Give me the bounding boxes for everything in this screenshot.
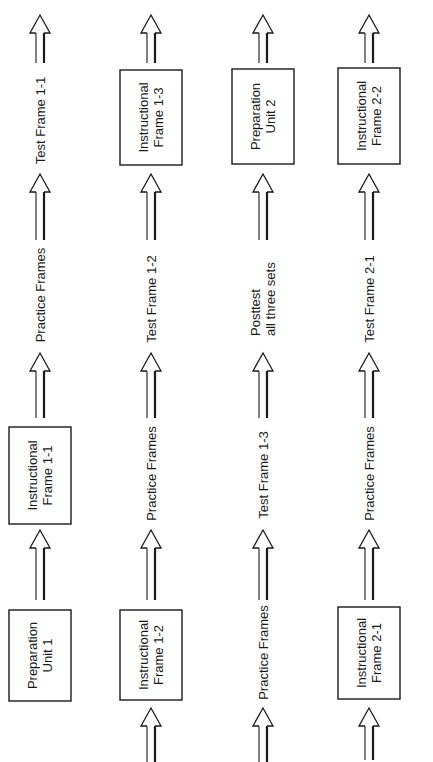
label-text: Instructional: [136, 82, 151, 152]
arrow-up-icon: [141, 530, 161, 600]
label-text: Instructional: [354, 81, 369, 151]
box-preparation-unit-1: PreparationUnit 1: [9, 610, 71, 701]
arrow-up-icon: [253, 530, 273, 600]
label-text: Preparation: [248, 83, 263, 150]
arrow-up-icon: [359, 353, 379, 418]
label-text: Instructional: [136, 620, 151, 690]
box-instructional-frame-1-2: InstructionalFrame 1-2: [120, 610, 182, 700]
box-instructional-frame-2-1: InstructionalFrame 2-1: [338, 607, 400, 699]
column-1: PreparationUnit 1InstructionalFrame 1-1P…: [9, 15, 71, 701]
arrow-up-icon: [141, 15, 161, 63]
label-test-frame-2-1: Test Frame 2-1: [362, 255, 377, 342]
label-text: Practice Frames: [362, 426, 377, 521]
arrow-up-icon: [141, 174, 161, 240]
label-posttest-all-three-sets: Posttestall three sets: [248, 262, 278, 336]
box-preparation-unit-2: PreparationUnit 2: [232, 69, 294, 164]
label-practice-frames: Practice Frames: [256, 605, 271, 700]
label-text: Frame 2-1: [369, 623, 384, 683]
label-text: Frame 1-3: [151, 88, 166, 148]
arrow-up-icon: [253, 15, 273, 63]
label-text: Preparation: [25, 622, 40, 689]
arrow-up-icon: [253, 353, 273, 418]
arrow-up-icon: [141, 353, 161, 418]
label-text: Test Frame 1-3: [256, 431, 271, 518]
arrow-up-icon: [30, 530, 50, 600]
label-text: Instructional: [25, 440, 40, 510]
label-text: Unit 2: [263, 100, 278, 134]
arrow-up-icon: [30, 174, 50, 240]
label-text: Practice Frames: [144, 426, 159, 521]
label-practice-frames: Practice Frames: [362, 426, 377, 521]
arrow-up-icon: [253, 708, 273, 762]
arrow-up-icon: [141, 708, 161, 762]
label-text: Posttest: [248, 289, 263, 336]
arrow-up-icon: [359, 708, 379, 760]
arrow-up-icon: [30, 15, 50, 63]
label-text: Test Frame 1-1: [33, 77, 48, 164]
box-instructional-frame-1-3: InstructionalFrame 1-3: [120, 70, 182, 165]
label-text: Practice Frames: [256, 605, 271, 700]
label-text: all three sets: [263, 262, 278, 336]
box-instructional-frame-1-1: InstructionalFrame 1-1: [9, 427, 71, 524]
label-test-frame-1-1: Test Frame 1-1: [33, 77, 48, 164]
label-text: Practice Frames: [33, 247, 48, 342]
label-test-frame-1-2: Test Frame 1-2: [144, 255, 159, 342]
arrow-up-icon: [359, 15, 379, 63]
flow-diagram: PreparationUnit 1InstructionalFrame 1-1P…: [0, 0, 433, 762]
label-text: Frame 1-1: [40, 446, 55, 506]
label-text: Instructional: [354, 618, 369, 688]
column-4: InstructionalFrame 2-1Practice FramesTes…: [338, 15, 400, 760]
label-text: Test Frame 1-2: [144, 255, 159, 342]
label-text: Frame 1-2: [151, 625, 166, 685]
column-2: InstructionalFrame 1-2Practice FramesTes…: [120, 15, 182, 762]
label-text: Test Frame 2-1: [362, 255, 377, 342]
arrow-up-icon: [359, 174, 379, 240]
label-text: Frame 2-2: [369, 86, 384, 146]
label-practice-frames: Practice Frames: [144, 426, 159, 521]
arrow-up-icon: [30, 353, 50, 418]
label-text: Unit 1: [40, 639, 55, 673]
label-test-frame-1-3: Test Frame 1-3: [256, 431, 271, 518]
column-3: Practice FramesTest Frame 1-3Posttestall…: [232, 15, 294, 762]
box-instructional-frame-2-2: InstructionalFrame 2-2: [338, 68, 400, 164]
arrow-up-icon: [359, 530, 379, 600]
arrow-up-icon: [253, 174, 273, 240]
label-practice-frames: Practice Frames: [33, 247, 48, 342]
